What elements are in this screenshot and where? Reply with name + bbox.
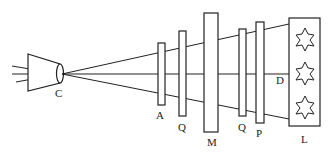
label-q1: Q (178, 121, 186, 133)
label-c: C (55, 87, 62, 99)
label-p: P (256, 127, 262, 139)
plate-q2 (239, 29, 246, 116)
label-m: M (207, 136, 217, 148)
plate-q1 (179, 31, 186, 116)
optics-diagram: C A Q M Q P D L (0, 0, 332, 158)
label-d: D (276, 74, 284, 86)
plate-p (256, 22, 264, 123)
label-q2: Q (238, 121, 246, 133)
label-l: L (301, 133, 308, 145)
plate-a (158, 43, 165, 105)
beam-bottom (62, 74, 289, 119)
beam-top (62, 24, 289, 74)
diagram-canvas: C A Q M Q P D L (0, 0, 332, 158)
label-a: A (156, 109, 164, 121)
plate-m (204, 13, 218, 132)
source-c (28, 54, 64, 91)
